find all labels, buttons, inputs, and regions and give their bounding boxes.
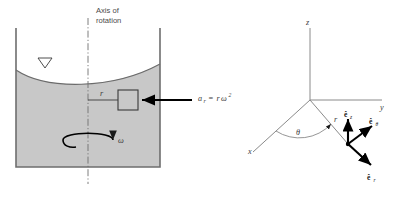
axis-z-label: z [305,18,310,27]
omega-label: ω [118,136,124,145]
free-surface-marker-icon [38,58,52,68]
e-r-label: ê [367,173,371,182]
e-z-label: ê [344,110,348,119]
accel-rhs-omega: ω [221,94,227,103]
e-r-arrow [348,144,371,165]
acceleration-equation: a r = r ω 2 [198,92,232,105]
e-z-subscript: z [349,114,353,120]
figure-root: Axis of rotation r a r = r ω 2 [0,0,396,202]
axis-of-rotation-label-line2: rotation [96,16,121,25]
physics-figure-svg: Axis of rotation r a r = r ω 2 [0,0,396,202]
e-r-subscript: r [374,177,377,183]
theta-label: θ [296,128,300,137]
axis-of-rotation-label-line1: Axis of [96,6,120,15]
e-theta-label: ê [369,117,373,126]
accel-rhs-r: r [217,94,221,103]
radius-line-right [310,100,348,144]
e-theta-subscript: θ [376,121,379,127]
accel-rhs-exponent: 2 [229,92,232,98]
axis-x-line [253,100,310,152]
unit-vector-e-z: ê z [344,110,353,144]
accel-equals: = [208,94,214,103]
accel-symbol: a [198,94,202,103]
accel-subscript: r [204,97,207,104]
e-theta-arrow [348,126,372,144]
fluid-element-square [118,90,138,110]
left-panel-group: Axis of rotation r a r = r ω 2 [16,6,232,184]
unit-vector-e-theta: ê θ [348,117,379,144]
right-panel-group: z y x r θ ê z ê [247,18,384,183]
axis-y-label: y [379,103,384,112]
unit-vector-e-r: ê r [348,144,377,183]
radius-label-right: r [334,115,338,124]
axis-x-label: x [247,147,252,156]
theta-arc [276,124,331,138]
